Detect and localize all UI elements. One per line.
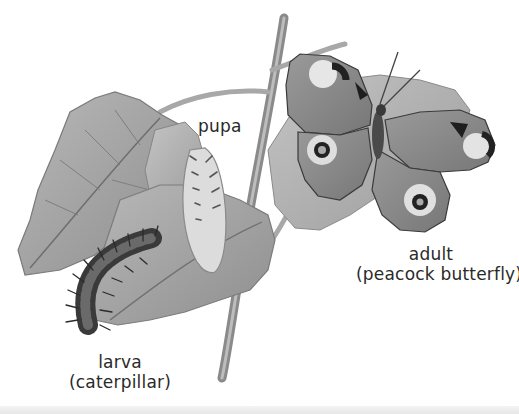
label-adult: adult (peacock butterfly) [356,244,506,284]
label-larva-line1: larva [60,352,180,372]
label-larva-line2: (caterpillar) [60,372,180,392]
label-pupa-line1: pupa [198,116,242,136]
label-pupa: pupa [198,116,242,136]
label-adult-line2: (peacock butterfly) [356,264,506,284]
bottom-edge-strip [0,406,519,414]
label-adult-line1: adult [356,244,506,264]
label-larva: larva (caterpillar) [60,352,180,392]
